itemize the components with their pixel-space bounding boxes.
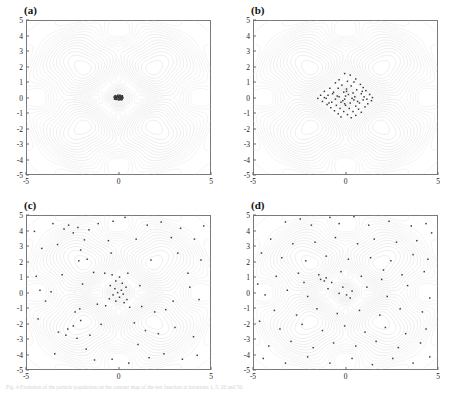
y-tick-mark [26,20,29,21]
data-point [320,95,321,96]
y-tick-mark [26,128,29,129]
y-tick-mark [26,246,29,247]
contour-level [301,256,389,330]
data-point [119,296,120,297]
contour-level [68,250,169,334]
y-tick-mark [26,51,29,52]
contour-level [280,43,411,152]
contour-level [64,246,174,338]
data-point [361,93,362,94]
x-tick-mark [118,172,119,175]
data-point [281,257,282,258]
contour-level [291,51,401,143]
data-point [318,274,319,275]
data-point [115,99,116,100]
data-point [145,330,146,331]
data-point [303,282,304,283]
data-point [326,104,327,105]
data-point [79,308,80,309]
data-point [63,228,64,229]
y-tick-label: 3 [19,242,23,251]
y-tick-mark [253,97,256,98]
data-point [65,334,66,335]
x-tick-label: -5 [250,372,256,381]
data-point [98,223,99,224]
contour-level [53,238,184,347]
data-point [268,345,269,346]
data-point [126,299,127,300]
contour-level [26,215,211,370]
data-point [160,221,161,222]
panel-c-axes: 543210-1-2-3-4-5-505 [26,215,211,370]
contour-level [287,48,404,146]
data-point [336,105,337,106]
contour-level [270,229,421,355]
data-point [337,95,338,96]
data-point [359,310,360,311]
data-point [122,97,123,98]
data-point [358,108,359,109]
data-point [85,348,86,349]
y-tick-label: -4 [17,155,23,164]
data-point [257,283,258,284]
data-point [296,314,297,315]
y-tick-label: 1 [19,78,23,87]
data-point [324,97,325,98]
data-point [86,259,87,260]
data-point [427,259,428,260]
data-point [360,84,361,85]
data-point [353,99,354,100]
data-point [330,107,331,108]
y-tick-label: 4 [246,31,250,40]
data-point [349,297,350,298]
data-point [305,260,306,261]
x-tick-label: 5 [209,372,213,381]
contour-level [270,34,421,160]
y-tick-mark [26,35,29,36]
data-point [362,99,363,100]
data-point [194,238,195,239]
data-point [128,362,129,363]
y-tick-label: 2 [19,257,23,266]
data-point [114,95,115,96]
data-point [311,224,312,225]
data-point [341,84,342,85]
data-point [399,308,400,309]
contour-lines [26,215,211,370]
data-point [172,300,173,301]
y-tick-mark [253,292,256,293]
data-point [349,74,350,75]
data-point [348,259,349,260]
data-point [285,362,286,363]
data-point [122,96,123,97]
data-point [351,290,352,291]
data-point [346,91,347,92]
data-point [381,279,382,280]
contour-level [43,229,194,355]
data-point [429,356,430,357]
data-point [365,90,366,91]
data-point [165,309,166,310]
data-point [355,345,356,346]
data-point [189,286,190,287]
data-point [123,302,124,303]
data-point [77,227,78,228]
data-point [345,95,346,96]
data-point [198,299,199,300]
data-point [125,286,126,287]
y-tick-label: -1 [244,109,250,118]
data-point [412,254,413,255]
data-point [270,238,271,239]
x-tick-label: -5 [23,372,29,381]
data-point [344,73,345,74]
data-point [57,244,58,245]
data-point [292,243,293,244]
y-tick-label: 4 [246,226,250,235]
data-point [337,113,338,114]
data-point [342,286,343,287]
data-point [120,95,121,96]
panel-b-label: (b) [251,4,264,16]
contour-level [33,221,203,364]
data-point [357,101,358,102]
data-point [259,321,260,322]
